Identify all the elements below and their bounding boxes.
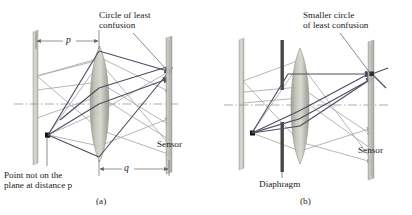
diaphragm-b <box>281 40 284 172</box>
panel-caption-b: (b) <box>300 196 311 206</box>
leader-line-circle-b <box>340 33 370 73</box>
lens-b <box>291 48 309 164</box>
label-circle-of-least-confusion-a: Circle of least confusion <box>99 10 151 31</box>
panel-caption-a: (a) <box>96 196 106 206</box>
dimension-label-q: q <box>124 162 129 173</box>
object-plane-a <box>33 30 38 165</box>
sensor-plane-b <box>368 40 374 180</box>
figure-container: Circle of least confusion Point not on t… <box>0 0 412 215</box>
dimension-label-p: p <box>66 34 71 45</box>
label-smaller-circle-of-least-confusion-b: Smaller circle of least confusion <box>303 10 368 31</box>
label-diaphragm-b: Diaphragm <box>259 179 300 189</box>
label-sensor-b: Sensor <box>358 145 383 155</box>
circle-of-least-confusion-marker-b <box>369 72 374 77</box>
dimension-q-a <box>99 160 169 176</box>
object-plane-b <box>239 38 244 170</box>
sensor-plane-a <box>166 36 172 174</box>
label-point-not-on-plane-a: Point not on the plane at distance p <box>4 170 72 191</box>
label-sensor-a: Sensor <box>157 139 182 149</box>
leader-line-circle-a <box>133 33 167 70</box>
